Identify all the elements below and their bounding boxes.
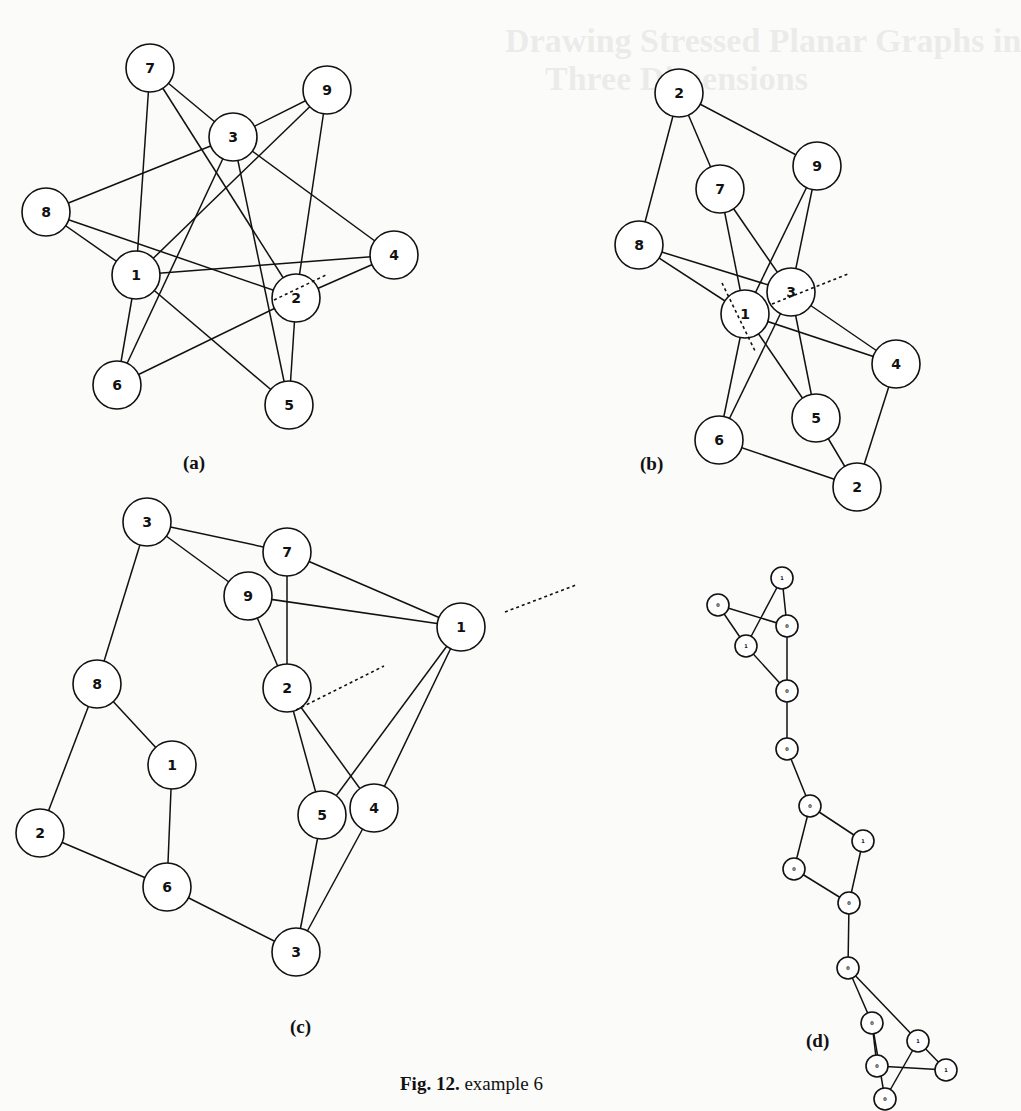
graph-node-label: 0 xyxy=(785,623,789,629)
graph-node: 2 xyxy=(655,69,703,117)
graph-node: 0 xyxy=(861,1012,883,1034)
graph-node-label: 2 xyxy=(35,825,45,841)
graph-node: 1 xyxy=(907,1030,929,1052)
graph-node-label: 1 xyxy=(944,1067,948,1073)
graph-panel-c: 379182154263 xyxy=(16,498,576,976)
dashed-cut-line xyxy=(505,585,576,612)
graph-node: 3 xyxy=(272,928,320,976)
graph-node-label: 0 xyxy=(847,900,851,906)
graph-node-label: 3 xyxy=(142,514,152,530)
graph-edge xyxy=(374,627,461,808)
graph-node-label: 2 xyxy=(282,680,292,696)
graph-node: 0 xyxy=(776,738,798,760)
graph-node: 6 xyxy=(93,361,141,409)
graph-node-label: 8 xyxy=(92,676,102,692)
graph-panel-d: 1001000100001010 xyxy=(707,567,957,1110)
graph-node-label: 4 xyxy=(369,800,379,816)
graph-node-label: 1 xyxy=(861,838,865,844)
graph-node: 3 xyxy=(123,498,171,546)
figure-caption-label: Fig. 12. xyxy=(400,1073,460,1094)
graph-edge xyxy=(848,968,918,1041)
graph-node: 1 xyxy=(735,635,757,657)
graph-node: 2 xyxy=(833,463,881,511)
graph-node: 7 xyxy=(263,528,311,576)
graph-node: 0 xyxy=(783,858,805,880)
graph-node-label: 0 xyxy=(785,688,789,694)
graph-node: 0 xyxy=(866,1055,888,1077)
graph-node: 7 xyxy=(126,44,174,92)
graph-node-label: 0 xyxy=(883,1096,887,1102)
graph-node: 0 xyxy=(874,1088,896,1110)
graph-node: 1 xyxy=(437,603,485,651)
graph-node-label: 0 xyxy=(808,803,812,809)
graph-node: 0 xyxy=(776,680,798,702)
graph-node-label: 1 xyxy=(131,267,141,283)
graph-edge xyxy=(287,552,461,627)
graph-panel-b: 2978314562 xyxy=(615,69,920,511)
graph-node: 1 xyxy=(721,290,769,338)
graph-node-label: 3 xyxy=(786,284,796,300)
graph-node-label: 0 xyxy=(785,746,789,752)
graph-node: 0 xyxy=(799,795,821,817)
graph-node: 1 xyxy=(148,741,196,789)
graph-node: 4 xyxy=(350,784,398,832)
graph-node-label: 2 xyxy=(852,479,862,495)
graph-node-label: 0 xyxy=(792,866,796,872)
graph-node: 5 xyxy=(792,394,840,442)
graph-node: 1 xyxy=(771,567,793,589)
graph-node: 6 xyxy=(695,416,743,464)
graph-edge xyxy=(322,627,461,815)
graph-node-label: 7 xyxy=(145,60,155,76)
graph-node: 3 xyxy=(209,113,257,161)
graph-node: 1 xyxy=(112,251,160,299)
figure-caption: Fig. 12. example 6 xyxy=(400,1073,543,1095)
graph-node: 9 xyxy=(224,572,272,620)
graph-node-label: 3 xyxy=(228,129,238,145)
graph-node-label: 5 xyxy=(317,807,327,823)
graph-node-label: 1 xyxy=(167,757,177,773)
graph-node-label: 0 xyxy=(875,1063,879,1069)
graph-node-label: 6 xyxy=(714,432,724,448)
graph-node-label: 0 xyxy=(846,965,850,971)
graph-node-label: 8 xyxy=(634,237,644,253)
figure-caption-text: example 6 xyxy=(464,1073,543,1094)
graph-node-label: 2 xyxy=(674,85,684,101)
graph-node: 4 xyxy=(370,231,418,279)
graph-node: 5 xyxy=(265,381,313,429)
graph-node: 4 xyxy=(872,340,920,388)
graph-node-label: 2 xyxy=(291,290,301,306)
graph-node-label: 4 xyxy=(389,247,399,263)
graph-node-label: 9 xyxy=(243,588,253,604)
panel-label-c: (c) xyxy=(290,1016,311,1038)
graph-node: 8 xyxy=(73,660,121,708)
panel-label-a: (a) xyxy=(183,452,205,474)
panel-label-b: (b) xyxy=(640,453,663,475)
graph-node-label: 9 xyxy=(322,82,332,98)
graph-node-label: 1 xyxy=(916,1038,920,1044)
panel-label-d: (d) xyxy=(806,1030,829,1052)
graph-node-label: 8 xyxy=(41,204,51,220)
graph-node-label: 6 xyxy=(162,879,172,895)
graph-node: 6 xyxy=(143,863,191,911)
graph-edge xyxy=(46,137,233,212)
graph-node: 0 xyxy=(776,615,798,637)
graph-node: 3 xyxy=(767,268,815,316)
graph-node-label: 7 xyxy=(715,181,725,197)
graph-node: 1 xyxy=(852,830,874,852)
graph-node-label: 0 xyxy=(870,1020,874,1026)
graph-node: 9 xyxy=(793,142,841,190)
graph-edge xyxy=(46,212,296,298)
graph-node: 2 xyxy=(263,664,311,712)
graph-node-label: 3 xyxy=(291,944,301,960)
graph-node: 7 xyxy=(696,165,744,213)
graph-node-label: 0 xyxy=(716,602,720,608)
graph-edge xyxy=(150,68,296,298)
graph-edge xyxy=(97,522,147,684)
graph-node: 0 xyxy=(707,594,729,616)
graph-panel-a: 793841265 xyxy=(22,44,418,429)
graph-node-label: 7 xyxy=(282,544,292,560)
graph-node: 5 xyxy=(298,791,346,839)
graph-node: 8 xyxy=(615,221,663,269)
graph-node: 1 xyxy=(935,1059,957,1081)
